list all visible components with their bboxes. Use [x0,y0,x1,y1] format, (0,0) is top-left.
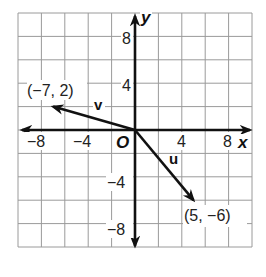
y-tick-label: −8 [107,221,125,238]
y-tick-label: 4 [122,77,131,94]
vector-v-label: v [94,96,103,113]
x-tick-label: −4 [73,133,91,150]
x-tick-label: −8 [27,133,45,150]
y-axis-label: y [140,8,152,27]
x-tick-label: 4 [177,133,186,150]
coordinate-plane: −8 −4 4 8 8 4 −4 −8 y x O v u (−7, 2) (5… [0,0,266,277]
y-tick-label: 8 [122,30,131,47]
point-v-label: (−7, 2) [27,82,74,99]
vector-u-label: u [169,150,178,167]
x-tick-label: 8 [223,133,232,150]
origin-label: O [116,133,129,152]
y-tick-label: −4 [107,174,125,191]
x-axis-label: x [237,133,249,152]
point-u-label: (5, −6) [184,207,231,224]
